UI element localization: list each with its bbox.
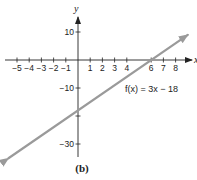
function-graph: −5−4−3−2−11234678 10−10−30 x y f(x) = 3x… <box>0 0 197 180</box>
x-tick-label: 6 <box>149 63 154 73</box>
y-tick-label: 10 <box>65 27 75 37</box>
x-tick-label: −3 <box>37 63 47 73</box>
y-axis-ticks: 10−10−30 <box>60 27 81 149</box>
x-tick-label: 3 <box>112 63 117 73</box>
y-axis-label: y <box>73 3 79 14</box>
x-tick-label: 1 <box>88 63 93 73</box>
x-axis-label: x <box>193 54 197 65</box>
y-tick-label: −10 <box>60 83 75 93</box>
function-line <box>8 35 187 158</box>
function-label: f(x) = 3x − 18 <box>125 84 178 94</box>
x-tick-label: 8 <box>173 63 178 73</box>
x-tick-label: 4 <box>124 63 129 73</box>
x-tick-label: −5 <box>12 63 22 73</box>
x-tick-label: −2 <box>49 63 59 73</box>
x-tick-label: 2 <box>100 63 105 73</box>
figure-caption: (b) <box>75 162 89 175</box>
x-tick-label: −1 <box>61 63 71 73</box>
y-tick-label: −30 <box>60 139 75 149</box>
x-tick-label: 7 <box>161 63 166 73</box>
x-tick-label: −4 <box>24 63 34 73</box>
